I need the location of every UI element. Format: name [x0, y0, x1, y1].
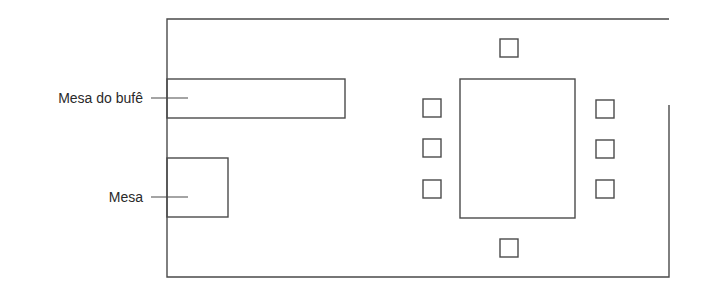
chair-left-3 [423, 180, 441, 198]
chair-left-2 [423, 139, 441, 157]
dining-table [460, 79, 575, 218]
side-table [167, 158, 228, 217]
chair-right-2 [596, 140, 614, 158]
chair-bottom [500, 239, 518, 257]
chair-left-1 [423, 99, 441, 117]
label-side-table: Mesa [109, 189, 143, 205]
chair-right-1 [596, 100, 614, 118]
label-buffet-table: Mesa do bufê [58, 90, 143, 106]
buffet-table [167, 79, 345, 118]
chair-top [500, 39, 518, 57]
room-walls [167, 19, 669, 277]
floor-plan-diagram: Mesa do bufê Mesa [0, 0, 707, 294]
floor-plan-svg [0, 0, 707, 294]
chair-right-3 [596, 180, 614, 198]
